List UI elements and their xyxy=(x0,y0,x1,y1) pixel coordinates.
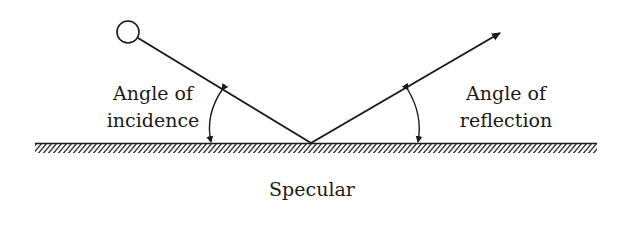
reflection-angle-arc xyxy=(408,90,419,142)
reflection-angle-label: Angle of reflection xyxy=(441,80,571,134)
reflection-label-line2: reflection xyxy=(441,107,571,134)
incidence-label-line2: incidence xyxy=(88,107,218,134)
incidence-angle-label: Angle of incidence xyxy=(88,80,218,134)
diagram-caption: Specular xyxy=(242,176,382,203)
reflecting-surface xyxy=(35,144,597,154)
reflection-label-line1: Angle of xyxy=(441,80,571,107)
light-source-icon xyxy=(117,21,139,43)
incidence-label-line1: Angle of xyxy=(88,80,218,107)
